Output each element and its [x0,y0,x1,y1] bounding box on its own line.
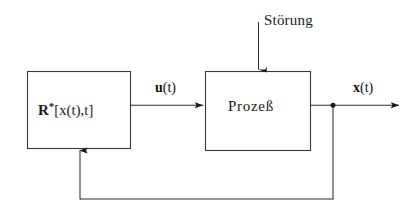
disturbance-label: Störung [264,13,313,28]
control-signal-label: u(t) [155,81,176,95]
controller-label-operator: R [38,102,49,118]
state-signal-label: x(t) [353,81,373,95]
controller-block-label: R*[x(t),t] [38,100,93,118]
state-signal-vector-symbol: x [353,80,360,95]
plant-block-label: Prozeß [228,99,274,114]
controller-label-superscript: * [49,100,55,112]
control-signal-time-argument: (t) [163,80,176,95]
state-signal-time-argument: (t) [360,80,373,95]
block-diagram-canvas: R*[x(t),t] Prozeß Störung u(t) x(t) [0,0,411,209]
controller-label-arguments: [x(t),t] [54,102,93,118]
control-signal-vector-symbol: u [155,80,163,95]
